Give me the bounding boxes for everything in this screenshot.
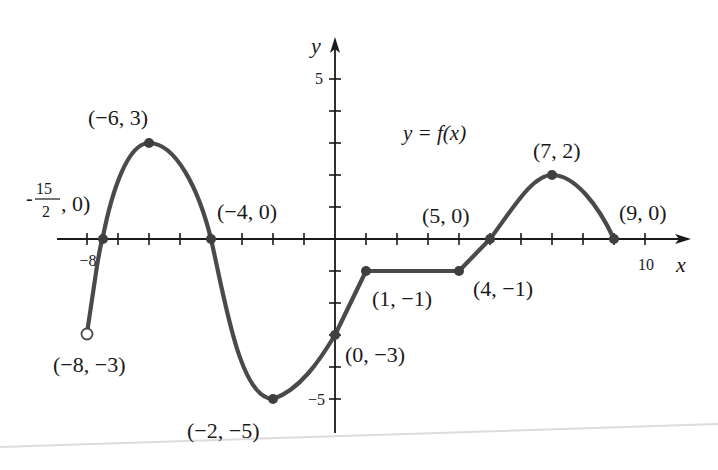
point-7-2 [547, 170, 557, 180]
point-1-neg1 [361, 266, 371, 276]
function-graph: 5 −5 −8 10 y x y = f(x) (−6, 3) (−4, [0, 0, 718, 470]
page-edge-line [0, 424, 718, 447]
point-4-neg1 [454, 266, 464, 276]
point-neg6-3 [144, 138, 154, 148]
point-0-neg3 [330, 330, 340, 340]
point-neg2-neg5 [268, 394, 278, 404]
x-tick-label-10: 10 [638, 256, 654, 273]
y-tick-label-neg5: −5 [308, 391, 325, 408]
svg-text:2: 2 [42, 203, 50, 220]
svg-text:-: - [26, 187, 33, 209]
y-axis-label: y [309, 33, 321, 58]
label-neg6-3: (−6, 3) [88, 105, 148, 130]
point-neg4-0 [206, 234, 216, 244]
label-neg4-0: (−4, 0) [217, 199, 277, 224]
y-tick-label-5: 5 [315, 70, 323, 87]
label-0-neg3: (0, −3) [345, 342, 405, 367]
svg-text:, 0): , 0) [61, 191, 90, 216]
label-9-0: (9, 0) [619, 200, 667, 225]
x-axis-label: x [675, 252, 686, 277]
x-tick-label-neg8: −8 [79, 252, 96, 269]
label-neg2-neg5: (−2, −5) [187, 418, 259, 443]
label-7-2: (7, 2) [533, 138, 581, 163]
axes [57, 37, 691, 433]
open-point-neg8-neg3 [82, 329, 93, 340]
label-1-neg1: (1, −1) [372, 286, 432, 311]
svg-text:15: 15 [36, 180, 52, 197]
label-5-0: (5, 0) [422, 203, 470, 228]
point-neg7.5-0 [98, 234, 108, 244]
function-label: y = f(x) [401, 121, 466, 145]
point-5-0 [485, 234, 495, 244]
label-neg15over2-0: - 15 2 , 0) [26, 180, 90, 220]
point-9-0 [609, 234, 619, 244]
label-4-neg1: (4, −1) [473, 276, 533, 301]
label-neg8-neg3: (−8, −3) [53, 352, 125, 377]
